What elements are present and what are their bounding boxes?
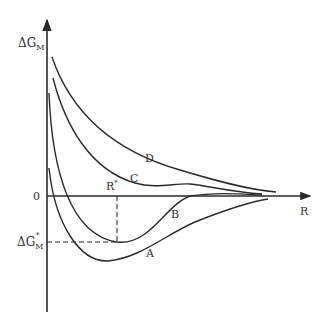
curve-d-label: D (145, 152, 154, 165)
curve-c (53, 78, 262, 194)
curve-d (52, 57, 276, 192)
x-axis-label: R (300, 205, 309, 218)
curve-a (49, 168, 268, 261)
free-energy-diagram: ΔGM 0 R R* ΔGM* A B C D (0, 0, 332, 328)
curve-b-label: B (171, 208, 179, 221)
g-star-label: ΔGM* (17, 231, 43, 251)
origin-label: 0 (33, 190, 40, 203)
r-star-label: R* (106, 179, 118, 193)
y-axis-label: ΔGM (18, 36, 44, 52)
curve-a-label: A (145, 247, 155, 260)
curve-c-label: C (130, 172, 138, 185)
curve-b (49, 93, 262, 242)
